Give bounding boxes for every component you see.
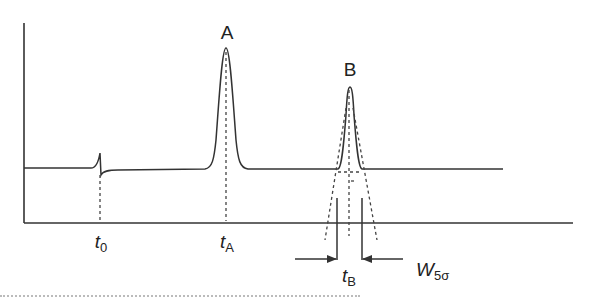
bottom-dotted-border bbox=[0, 295, 360, 297]
t0-label: t0 bbox=[95, 232, 108, 254]
t0-subscript: 0 bbox=[100, 240, 107, 255]
tA-subscript: A bbox=[225, 240, 234, 255]
peak-b-right-tangent bbox=[353, 108, 377, 240]
peak-a-label: A bbox=[221, 23, 234, 42]
peak-b-left-tangent bbox=[325, 108, 346, 240]
width-symbol: W bbox=[416, 259, 434, 280]
width-label: W5σ bbox=[416, 260, 449, 282]
tB-label: tB bbox=[342, 266, 356, 288]
tA-label: tA bbox=[220, 232, 234, 254]
tB-subscript: B bbox=[347, 274, 356, 289]
width-subscript: 5σ bbox=[434, 268, 449, 283]
peak-b-label: B bbox=[344, 60, 357, 79]
signal-trace bbox=[24, 48, 503, 175]
chromatogram-diagram bbox=[0, 0, 595, 299]
